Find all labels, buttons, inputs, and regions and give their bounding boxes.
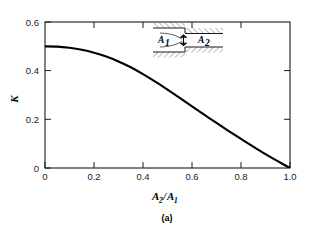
x-tick-label-1: 0.2 <box>87 171 100 182</box>
chart-svg: 0 0.2 0.4 0.6 0.8 1.0 0 0.2 0.4 0.6 K A … <box>0 0 318 228</box>
x-axis-title-denominator-sub: 1 <box>174 196 178 205</box>
inset-lower-left-wall-hatch <box>153 52 185 58</box>
y-tick-label-3: 0.6 <box>26 17 39 28</box>
inset-upper-left-wall-hatch <box>153 23 185 29</box>
figure-container: 0 0.2 0.4 0.6 0.8 1.0 0 0.2 0.4 0.6 K A … <box>0 0 318 228</box>
inset-lower-right-wall-hatch <box>185 47 223 53</box>
inset-label-a1-subscript: 1 <box>165 38 170 48</box>
y-tick-label-1: 0.2 <box>26 114 39 125</box>
figure-caption: (a) <box>162 213 173 223</box>
x-tick-label-3: 0.6 <box>185 171 198 182</box>
inset-label-a2-letter: A <box>197 35 204 45</box>
y-tick-label-0: 0 <box>34 163 39 174</box>
y-tick-label-2: 0.4 <box>26 65 39 76</box>
inset-upper-right-wall-hatch <box>185 28 223 34</box>
x-tick-label-0: 0 <box>42 171 47 182</box>
x-tick-label-2: 0.4 <box>136 171 149 182</box>
x-tick-label-4: 0.8 <box>234 171 247 182</box>
inset-label-a2-subscript: 2 <box>204 38 210 48</box>
inset-label-a1-letter: A <box>157 35 164 45</box>
x-tick-label-5: 1.0 <box>283 171 296 182</box>
y-axis-title: K <box>8 95 20 104</box>
